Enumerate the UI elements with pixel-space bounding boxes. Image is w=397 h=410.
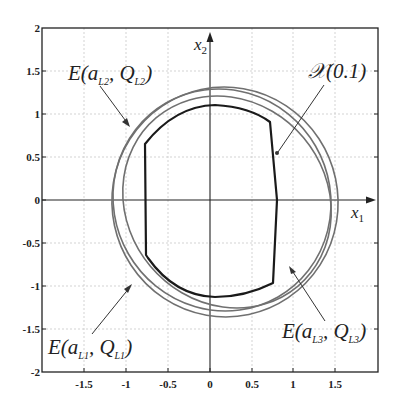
y-tick-label: 0 xyxy=(35,194,41,206)
y-tick-label: -1 xyxy=(31,280,40,292)
y-tick-label: 1.5 xyxy=(26,65,40,77)
x-tick-label: -0.5 xyxy=(159,378,177,390)
x-tick-label: -1 xyxy=(121,378,130,390)
x-tick-label: -1.5 xyxy=(75,378,93,390)
label-ellipse-L2: E(aL2, QL2) xyxy=(67,61,152,87)
y-tick-label: -0.5 xyxy=(23,237,41,249)
y-tick-label: 1 xyxy=(35,108,41,120)
x-tick-labels: -1.5 -1 -0.5 0 0.5 1 1.5 xyxy=(75,378,342,390)
invariant-set-diagram: -1.5 -1 -0.5 0 0.5 1 1.5 2 1.5 1 0.5 0 -… xyxy=(0,0,397,410)
x2-arrow-icon xyxy=(207,32,214,42)
label-ellipse-L1: E(aL1, QL1) xyxy=(47,335,132,361)
x1-axis-label: x1 xyxy=(350,203,364,224)
label-invariant-set: 𝒳(0.1) xyxy=(308,59,366,83)
x-tick-label: 1 xyxy=(290,378,296,390)
x1-arrow-icon xyxy=(366,197,376,204)
x-tick-label: 0 xyxy=(207,378,213,390)
invariant-set-polygon xyxy=(145,105,277,297)
label-ellipse-L3: E(aL3, QL3) xyxy=(281,319,366,345)
y-tick-label: -1.5 xyxy=(23,323,41,335)
x2-axis-label: x2 xyxy=(193,35,207,56)
ellipse-L3 xyxy=(80,53,375,350)
y-tick-labels: 2 1.5 1 0.5 0 -0.5 -1 -1.5 -2 xyxy=(23,22,41,378)
y-tick-label: 0.5 xyxy=(26,151,40,163)
y-tick-label: -2 xyxy=(31,366,41,378)
y-tick-label: 2 xyxy=(35,22,41,34)
x-tick-label: 0.5 xyxy=(245,378,259,390)
x-tick-label: 1.5 xyxy=(328,378,342,390)
